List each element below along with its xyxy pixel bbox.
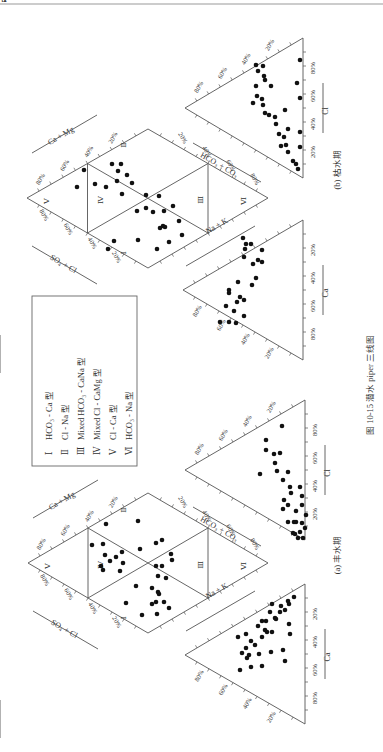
tick: [134, 133, 136, 136]
tick: [266, 339, 268, 342]
zone-label: Ⅱ: [119, 142, 128, 147]
tick-label: 60%: [309, 299, 316, 312]
tick: [256, 512, 258, 515]
tick-label: 60%: [63, 587, 75, 601]
tick-label: 40%: [309, 117, 316, 130]
sample-point: [287, 622, 292, 627]
sample-point: [284, 143, 289, 148]
axis-arrow: [33, 611, 98, 649]
tick: [38, 205, 40, 208]
sample-point: [281, 478, 286, 483]
tick: [184, 247, 186, 250]
tick: [160, 497, 162, 500]
sample-point: [263, 111, 268, 116]
tick: [243, 143, 245, 146]
tick: [75, 532, 77, 535]
sample-point: [125, 173, 130, 178]
tick-label: 40%: [83, 508, 95, 522]
legend-label: Cl - Na 型: [60, 404, 70, 440]
tick-label: 20%: [265, 710, 277, 724]
sample-point: [157, 194, 162, 199]
sample-point: [293, 532, 298, 537]
tick: [195, 115, 197, 118]
tick-label: 80%: [192, 79, 204, 93]
sample-point: [303, 526, 308, 531]
sample-point: [279, 144, 284, 149]
legend-label: Mixed Cl - CaMg 型: [92, 368, 102, 440]
axis-arrow: [193, 143, 261, 182]
tick: [256, 205, 258, 208]
tick: [232, 498, 234, 501]
zone-label: Ⅲ: [196, 561, 205, 569]
tick: [207, 91, 209, 94]
sample-point: [249, 242, 254, 247]
sample-point: [162, 600, 167, 605]
sample-point: [151, 210, 156, 215]
sample-point: [269, 650, 274, 655]
subfigure-title: (b) 枯水期: [332, 150, 342, 189]
axis-title: Mg: [0, 0, 6, 2]
tick-label: 20%: [311, 607, 318, 620]
sample-point: [261, 64, 266, 69]
tick: [218, 311, 220, 314]
tick: [280, 411, 282, 414]
sample-point: [289, 491, 294, 496]
tick: [196, 460, 198, 463]
sample-point: [268, 610, 273, 615]
tick: [74, 168, 76, 171]
sample-point: [272, 452, 277, 457]
sample-point: [167, 240, 172, 245]
sample-point: [224, 304, 229, 309]
sample-point: [154, 564, 159, 569]
sample-point: [157, 592, 162, 597]
tick: [111, 612, 113, 615]
zone-label: Ⅴ: [42, 198, 51, 205]
legend-roman: Ⅴ: [108, 448, 118, 456]
tick: [232, 624, 234, 627]
sample-point: [150, 586, 155, 591]
tick: [206, 304, 208, 307]
tick-label: 40%: [309, 271, 316, 284]
sample-point: [273, 115, 278, 120]
sample-point: [275, 469, 280, 474]
tick: [232, 584, 234, 587]
sample-point: [298, 96, 303, 101]
sample-point: [150, 602, 155, 607]
tick-label: 20%: [107, 130, 119, 144]
sample-point: [265, 630, 270, 635]
tick: [196, 240, 198, 243]
sample-point: [119, 162, 124, 167]
sample-point: [298, 58, 303, 63]
sample-point: [144, 206, 149, 211]
tick-label: 80%: [191, 303, 203, 317]
sample-point: [288, 632, 293, 637]
tick: [123, 504, 125, 507]
sample-point: [261, 103, 266, 108]
tick: [99, 605, 101, 608]
tick-label: 20%: [309, 243, 316, 256]
tick: [290, 42, 292, 45]
tick: [280, 710, 282, 713]
sample-point: [227, 291, 232, 296]
legend-label: HCO₃ - Ca 型: [44, 391, 54, 440]
sample-point: [260, 260, 265, 265]
axis-title: Ca: [323, 652, 332, 661]
tick: [99, 518, 101, 521]
tick-label: 60%: [215, 317, 227, 331]
sample-point: [282, 135, 287, 140]
sample-point: [108, 559, 113, 564]
tick-label: 20%: [309, 145, 316, 158]
tick-label: 80%: [311, 691, 318, 704]
sample-point: [240, 651, 245, 656]
sample-point: [301, 536, 306, 541]
tick: [172, 140, 174, 143]
sample-point: [242, 314, 247, 319]
tick: [244, 182, 246, 185]
sample-point: [104, 522, 109, 527]
sample-point: [282, 498, 287, 503]
subfigure-title: (a) 丰水期: [332, 536, 342, 575]
tick-label: 20%: [265, 399, 277, 413]
sample-point: [286, 150, 291, 155]
zone-label: Ⅵ: [239, 562, 248, 571]
sample-point: [262, 74, 267, 79]
